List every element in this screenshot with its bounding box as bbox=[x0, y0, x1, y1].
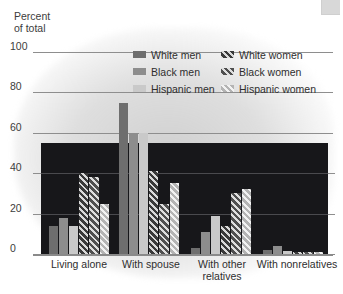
bar bbox=[201, 232, 210, 254]
corner-tab-decoration bbox=[321, 0, 340, 15]
y-tick-label-80: 80 bbox=[10, 80, 38, 92]
y-tick-label-0: 0 bbox=[10, 242, 38, 254]
x-axis-baseline bbox=[33, 254, 333, 256]
bar bbox=[159, 204, 168, 255]
legend-item-label: White men bbox=[151, 49, 201, 61]
bar-group-0 bbox=[49, 52, 111, 254]
legend-column-men: White menBlack menHispanic men bbox=[133, 46, 215, 97]
y-tick-label-20: 20 bbox=[10, 202, 38, 214]
legend-item: Hispanic men bbox=[133, 80, 215, 97]
legend-swatch-icon bbox=[221, 85, 234, 92]
bar bbox=[211, 216, 220, 254]
bar bbox=[149, 171, 158, 254]
legend-item: Black men bbox=[133, 63, 215, 80]
bar bbox=[242, 189, 251, 254]
chart-figure: Percent of total 100806040200 White menB… bbox=[0, 0, 343, 294]
y-axis-title: Percent of total bbox=[14, 10, 50, 34]
bar bbox=[129, 133, 138, 254]
bar bbox=[119, 103, 128, 255]
legend-swatch-icon bbox=[133, 85, 146, 92]
bar bbox=[139, 133, 148, 254]
legend-item: Hispanic women bbox=[221, 80, 316, 97]
bar bbox=[231, 193, 240, 254]
legend-swatch-icon bbox=[221, 51, 234, 58]
y-tick-label-100: 100 bbox=[10, 40, 38, 52]
bar bbox=[79, 173, 88, 254]
bar bbox=[100, 204, 109, 255]
x-axis-label-3: With nonrelatives bbox=[254, 259, 340, 271]
x-axis-label-1: With spouse bbox=[116, 259, 186, 271]
legend-swatch-icon bbox=[221, 68, 234, 75]
legend-swatch-icon bbox=[133, 68, 146, 75]
bar bbox=[273, 246, 282, 254]
bar bbox=[69, 226, 78, 254]
bar bbox=[49, 226, 58, 254]
legend-item-label: Black men bbox=[151, 66, 200, 78]
bar bbox=[170, 183, 179, 254]
legend-column-women: White womenBlack womenHispanic women bbox=[221, 46, 316, 97]
legend-item-label: Black women bbox=[239, 66, 301, 78]
y-tick-label-40: 40 bbox=[10, 161, 38, 173]
legend-item: White women bbox=[221, 46, 316, 63]
legend-item: Black women bbox=[221, 63, 316, 80]
x-axis-label-0: Living alone bbox=[44, 259, 114, 271]
legend-item-label: Hispanic men bbox=[151, 83, 215, 95]
legend-item: White men bbox=[133, 46, 215, 63]
bar bbox=[221, 226, 230, 254]
x-axis-label-2: With other relatives bbox=[186, 259, 258, 282]
y-tick-label-60: 60 bbox=[10, 121, 38, 133]
legend-item-label: White women bbox=[239, 49, 303, 61]
legend-item-label: Hispanic women bbox=[239, 83, 316, 95]
bar bbox=[59, 218, 68, 254]
bar bbox=[89, 177, 98, 254]
legend-swatch-icon bbox=[133, 51, 146, 58]
